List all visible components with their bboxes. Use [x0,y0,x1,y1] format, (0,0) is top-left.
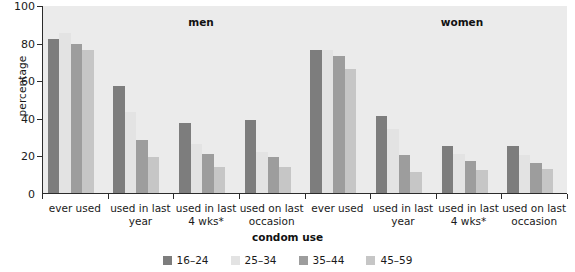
bar [453,154,465,193]
legend-swatch-icon [299,256,308,265]
x-axis-category-label-line: occasion [495,215,573,228]
bar [310,50,322,193]
legend-item[interactable]: 35–44 [299,255,345,266]
y-axis-ticks: 020406080100 [0,0,42,200]
legend-label: 35–44 [313,255,345,266]
panel-title-women: women [441,16,483,28]
legend-item[interactable]: 45–59 [366,255,412,266]
bar-group [43,6,109,193]
bar [148,157,160,193]
legend-label: 16–24 [177,255,209,266]
bar [519,155,531,193]
bar [179,123,191,193]
x-axis-tick-mark [173,194,174,199]
bar-group [502,6,568,193]
legend-item[interactable]: 25–34 [231,255,277,266]
bar [442,146,454,193]
legend: 16–2425–3435–4445–59 [0,252,575,268]
bar [376,116,388,193]
bar [71,44,83,193]
bar [387,129,399,193]
bar [279,167,291,193]
bar [48,39,60,193]
bar [245,120,257,193]
bar [410,172,422,193]
bar-group [174,6,240,193]
y-axis-tick-label: 20 [21,151,35,162]
legend-label: 45–59 [380,255,412,266]
bar-group [306,6,372,193]
x-axis-tick-mark [108,194,109,199]
y-axis-tick-label: 60 [21,76,35,87]
x-axis-tick-mark [436,194,437,199]
bar [333,56,345,193]
x-axis-category-label-line: occasion [233,215,311,228]
panel-title-men: men [188,16,214,28]
bar-group [371,6,437,193]
bar [256,152,268,193]
bar [82,50,94,193]
condom-use-bar-chart: percentage 020406080100 men women ever u… [0,0,575,272]
plot-area: men women [42,6,567,194]
bar [214,167,226,193]
bars-layer [43,6,567,193]
y-axis-tick-label: 100 [14,1,35,12]
x-axis-tick-marks [42,194,567,200]
bar [530,163,542,193]
bar-group [240,6,306,193]
bar-group [109,6,175,193]
bar [465,161,477,193]
legend-item[interactable]: 16–24 [163,255,209,266]
x-axis-tick-mark [370,194,371,199]
bar [113,86,125,193]
x-axis-tick-mark [501,194,502,199]
bar-group [437,6,503,193]
bar [542,169,554,193]
y-axis-tick-label: 80 [21,38,35,49]
legend-swatch-icon [366,256,375,265]
bar [191,144,203,193]
bar [268,157,280,193]
bar [476,170,488,193]
legend-label: 25–34 [245,255,277,266]
bar [125,112,137,193]
x-axis-label: condom use [0,231,575,243]
bar [345,69,357,193]
bar [399,155,411,193]
x-axis-tick-mark [305,194,306,199]
bar [59,33,71,193]
x-axis-tick-mark [239,194,240,199]
x-axis-tick-mark [42,194,43,199]
y-axis-tick-label: 40 [21,113,35,124]
legend-swatch-icon [231,256,240,265]
x-axis-category-label: used on lastoccasion [495,202,573,227]
x-axis-category-label-line: used on last [495,202,573,215]
legend-swatch-icon [163,256,172,265]
y-axis-tick-label: 0 [28,189,35,200]
bar [507,146,519,193]
bar [202,154,214,193]
bar [136,140,148,193]
bar [322,50,334,193]
x-axis-tick-mark [567,194,568,199]
